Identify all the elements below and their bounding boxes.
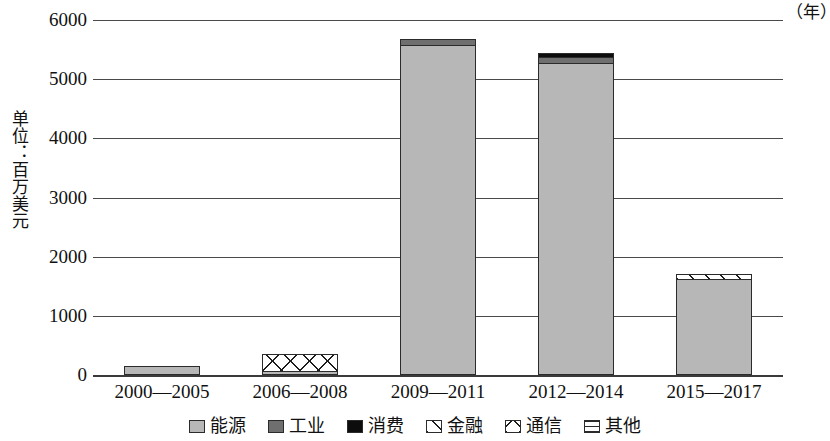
plot-area [93,20,783,375]
x-axis-tick-label: 2000—2005 [93,379,231,405]
bar-segment [124,366,200,375]
legend-item[interactable]: 消费 [347,416,404,436]
bar-segment [262,354,338,371]
legend-label: 消费 [368,416,404,436]
bar-stack [400,39,476,375]
bar-segment [400,45,476,375]
y-axis-tick-label: 5000 [27,69,87,88]
legend-swatch-icon [189,420,205,433]
legend-label: 能源 [210,416,246,436]
bar-stack [538,53,614,375]
legend-label: 金融 [447,416,483,436]
x-axis-tick-labels: 2000—20052006—20082009—20112012—20142015… [93,379,783,407]
x-axis-tick-label: 2006—2008 [231,379,369,405]
x-axis-unit-label: （年） [786,0,830,26]
bar-group [262,20,338,375]
legend-item[interactable]: 通信 [505,416,562,436]
bar-group [124,20,200,375]
stacked-bar-chart: 单位：百万美元 6000500040003000200010000 2000—2… [0,0,830,441]
legend-label: 通信 [526,416,562,436]
bar-stack [676,274,752,375]
y-axis-tick-labels: 6000500040003000200010000 [25,0,87,441]
bar-segment [400,39,476,45]
bar-segment [538,53,614,57]
bar-segment [538,63,614,375]
legend-swatch-icon [268,420,284,433]
y-axis-tick-label: 1000 [27,306,87,325]
legend-item[interactable]: 工业 [268,416,325,436]
legend-label: 工业 [289,416,325,436]
legend-swatch-icon [584,420,600,433]
legend-item[interactable]: 其他 [584,416,641,436]
y-axis-tick-label: 4000 [27,128,87,147]
legend-swatch-icon [505,420,521,433]
y-axis-tick-label: 0 [27,365,87,384]
bar-segment [676,274,752,279]
x-axis-tick-label: 2015—2017 [645,379,783,405]
legend-label: 其他 [605,416,641,436]
bar-group [400,20,476,375]
y-axis-tick-label: 3000 [27,188,87,207]
legend-item[interactable]: 金融 [426,416,483,436]
legend-swatch-icon [347,420,363,433]
x-axis-tick-label: 2012—2014 [507,379,645,405]
legend-swatch-icon [426,420,442,433]
bar-group [676,20,752,375]
bar-stack [124,366,200,375]
bar-series-container [93,20,783,375]
chart-legend: 能源工业消费金融通信其他 [0,412,830,440]
x-axis-baseline [93,375,783,377]
bar-segment [262,371,338,375]
x-axis-tick-label: 2009—2011 [369,379,507,405]
y-axis-tick-label: 2000 [27,247,87,266]
bar-segment [676,279,752,375]
bar-group [538,20,614,375]
bar-stack [262,354,338,375]
legend-item[interactable]: 能源 [189,416,246,436]
y-axis-tick-label: 6000 [27,10,87,29]
bar-segment [538,57,614,63]
